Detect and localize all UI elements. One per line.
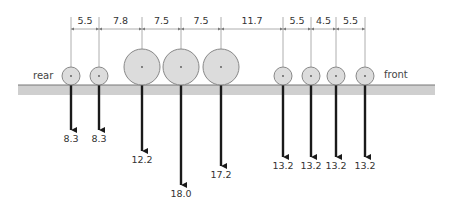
dim-arrowhead	[71, 28, 74, 31]
wheel-hub	[180, 66, 182, 68]
spacing-label: 4.5	[316, 15, 331, 26]
load-label: 12.2	[131, 154, 152, 165]
dim-arrowhead	[218, 28, 221, 31]
spacing-label: 7.5	[193, 15, 208, 26]
spacing-label: 7.8	[113, 15, 128, 26]
ground-bar	[18, 85, 435, 95]
dim-arrowhead	[336, 28, 339, 31]
dim-arrowhead	[333, 28, 336, 31]
front-label: front	[384, 69, 408, 80]
axle: 8.3	[62, 17, 80, 144]
wheel-hub	[70, 75, 72, 77]
wheel-hub	[364, 75, 366, 77]
load-label: 8.3	[63, 133, 78, 144]
dim-arrowhead	[311, 28, 314, 31]
dim-arrowhead	[96, 28, 99, 31]
wheel-hub	[335, 75, 337, 77]
dim-arrowhead	[142, 28, 145, 31]
dim-arrowhead	[99, 28, 102, 31]
rear-label: rear	[33, 70, 54, 81]
axle: 17.2	[203, 17, 239, 180]
wheel-hub	[282, 75, 284, 77]
dim-arrowhead	[362, 28, 365, 31]
spacing-label: 5.5	[289, 15, 304, 26]
axle: 18.0	[163, 17, 199, 198]
spacing-label: 5.5	[77, 15, 92, 26]
dim-arrowhead	[181, 28, 184, 31]
dim-arrowhead	[139, 28, 142, 31]
load-label: 13.2	[354, 160, 375, 171]
dim-arrowhead	[308, 28, 311, 31]
dim-arrowhead	[178, 28, 181, 31]
spacing-label: 7.5	[154, 15, 169, 26]
wheel-hub	[141, 66, 143, 68]
wheel-hub	[98, 75, 100, 77]
load-label: 17.2	[210, 169, 231, 180]
dim-arrowhead	[221, 28, 224, 31]
load-label: 13.2	[300, 160, 321, 171]
load-label: 18.0	[170, 188, 191, 198]
axle: 8.3	[90, 17, 108, 144]
load-label: 13.2	[325, 160, 346, 171]
wheel-hub	[220, 66, 222, 68]
spacing-label: 11.7	[241, 15, 262, 26]
spacing-label: 5.5	[343, 15, 358, 26]
wheel-hub	[310, 75, 312, 77]
load-label: 8.3	[91, 133, 106, 144]
axle-load-diagram: 8.38.312.218.017.213.213.213.213.2 5.57.…	[0, 0, 449, 198]
dim-arrowhead	[280, 28, 283, 31]
load-label: 13.2	[272, 160, 293, 171]
dim-arrowhead	[283, 28, 286, 31]
